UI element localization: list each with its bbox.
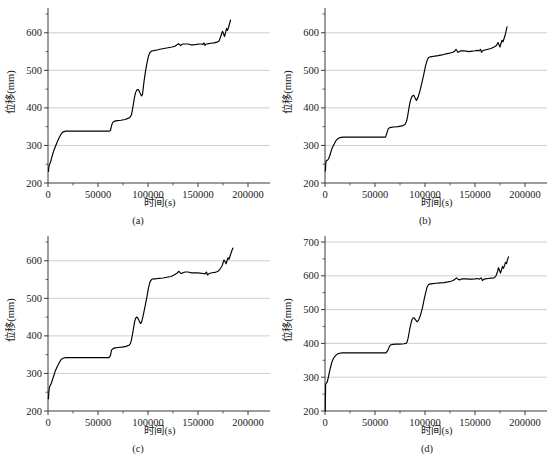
x-tick-label: 200000 xyxy=(232,417,264,428)
panel-caption-a: (a) xyxy=(132,215,144,227)
y-tick-label: 400 xyxy=(303,102,319,113)
x-tick-label: 150000 xyxy=(459,417,491,428)
y-tick-label: 300 xyxy=(26,140,42,151)
series-line xyxy=(325,257,508,411)
y-tick-label: 500 xyxy=(26,65,42,76)
series-line xyxy=(325,27,507,171)
data-curve-a xyxy=(49,20,231,171)
grid-lines-c xyxy=(48,261,270,374)
tick-marks-b xyxy=(321,14,525,187)
chart-svg-a: 200300400500600050000100000150000200000 … xyxy=(0,0,276,229)
axis-lines-c xyxy=(48,236,270,411)
tick-marks-d xyxy=(321,242,525,415)
tick-labels-c: 200300400500600050000100000150000200000 xyxy=(26,255,264,428)
x-tick-label: 200000 xyxy=(509,189,541,200)
x-tick-label: 50000 xyxy=(362,189,388,200)
x-tick-label: 0 xyxy=(45,417,50,428)
y-tick-label: 200 xyxy=(303,406,319,417)
panel-caption-b: (b) xyxy=(419,215,432,227)
tick-marks-c xyxy=(44,242,248,415)
y-axis-title-a: 位移(mm) xyxy=(4,70,17,114)
y-tick-label: 300 xyxy=(303,372,319,383)
y-tick-label: 600 xyxy=(26,27,42,38)
y-axis-title-c: 位移(mm) xyxy=(4,298,17,342)
tick-labels-b: 200300400500600050000100000150000200000 xyxy=(303,27,541,200)
chart-svg-d: 2003004005006007000500001000001500002000… xyxy=(277,228,553,459)
x-tick-label: 200000 xyxy=(232,189,264,200)
y-tick-label: 500 xyxy=(303,65,319,76)
series-line xyxy=(49,20,231,171)
x-tick-label: 150000 xyxy=(182,189,214,200)
x-axis-title-c: 时间(s) xyxy=(144,424,176,437)
y-tick-label: 300 xyxy=(26,368,42,379)
x-axis-title-b: 时间(s) xyxy=(421,196,453,209)
x-tick-label: 50000 xyxy=(85,417,111,428)
panel-caption-c: (c) xyxy=(132,443,144,455)
x-tick-label: 50000 xyxy=(85,189,111,200)
x-tick-label: 0 xyxy=(45,189,50,200)
figure-container: 200300400500600050000100000150000200000 … xyxy=(0,0,553,459)
x-tick-label: 50000 xyxy=(362,417,388,428)
y-tick-label: 600 xyxy=(26,255,42,266)
x-tick-label: 0 xyxy=(322,189,327,200)
series-line xyxy=(48,248,233,399)
y-tick-label: 500 xyxy=(303,304,319,315)
y-tick-label: 200 xyxy=(26,406,42,417)
y-tick-label: 400 xyxy=(26,330,42,341)
data-curve-b xyxy=(325,27,507,171)
grid-lines-b xyxy=(325,33,547,146)
x-tick-label: 150000 xyxy=(459,189,491,200)
y-tick-label: 700 xyxy=(303,237,319,248)
axis-lines-b xyxy=(325,8,547,183)
tick-labels-a: 200300400500600050000100000150000200000 xyxy=(26,27,264,200)
chart-svg-c: 200300400500600050000100000150000200000 … xyxy=(0,228,276,459)
y-tick-label: 200 xyxy=(26,178,42,189)
y-tick-label: 400 xyxy=(26,102,42,113)
tick-marks-a xyxy=(44,14,248,187)
y-tick-label: 600 xyxy=(303,27,319,38)
x-tick-label: 0 xyxy=(322,417,327,428)
y-tick-label: 600 xyxy=(303,270,319,281)
grid-lines-d xyxy=(325,242,547,377)
chart-panel-a: 200300400500600050000100000150000200000 … xyxy=(0,0,276,229)
data-curve-c xyxy=(48,248,233,399)
panel-caption-d: (d) xyxy=(421,443,434,455)
chart-panel-d: 2003004005006007000500001000001500002000… xyxy=(277,228,553,457)
chart-panel-c: 200300400500600050000100000150000200000 … xyxy=(0,228,276,457)
y-tick-label: 400 xyxy=(303,338,319,349)
chart-panel-b: 200300400500600050000100000150000200000 … xyxy=(277,0,553,229)
x-tick-label: 200000 xyxy=(509,417,541,428)
y-tick-label: 500 xyxy=(26,293,42,304)
axis-lines-a xyxy=(48,8,270,183)
y-axis-title-d: 位移(mm) xyxy=(281,298,294,342)
chart-svg-b: 200300400500600050000100000150000200000 … xyxy=(277,0,553,229)
y-tick-label: 200 xyxy=(303,178,319,189)
y-axis-title-b: 位移(mm) xyxy=(281,70,294,114)
x-tick-label: 150000 xyxy=(182,417,214,428)
data-curve-d xyxy=(325,257,508,411)
y-tick-label: 300 xyxy=(303,140,319,151)
x-axis-title-a: 时间(s) xyxy=(144,196,176,209)
axis-lines-d xyxy=(325,236,547,411)
x-axis-title-d: 时间(s) xyxy=(421,424,453,437)
